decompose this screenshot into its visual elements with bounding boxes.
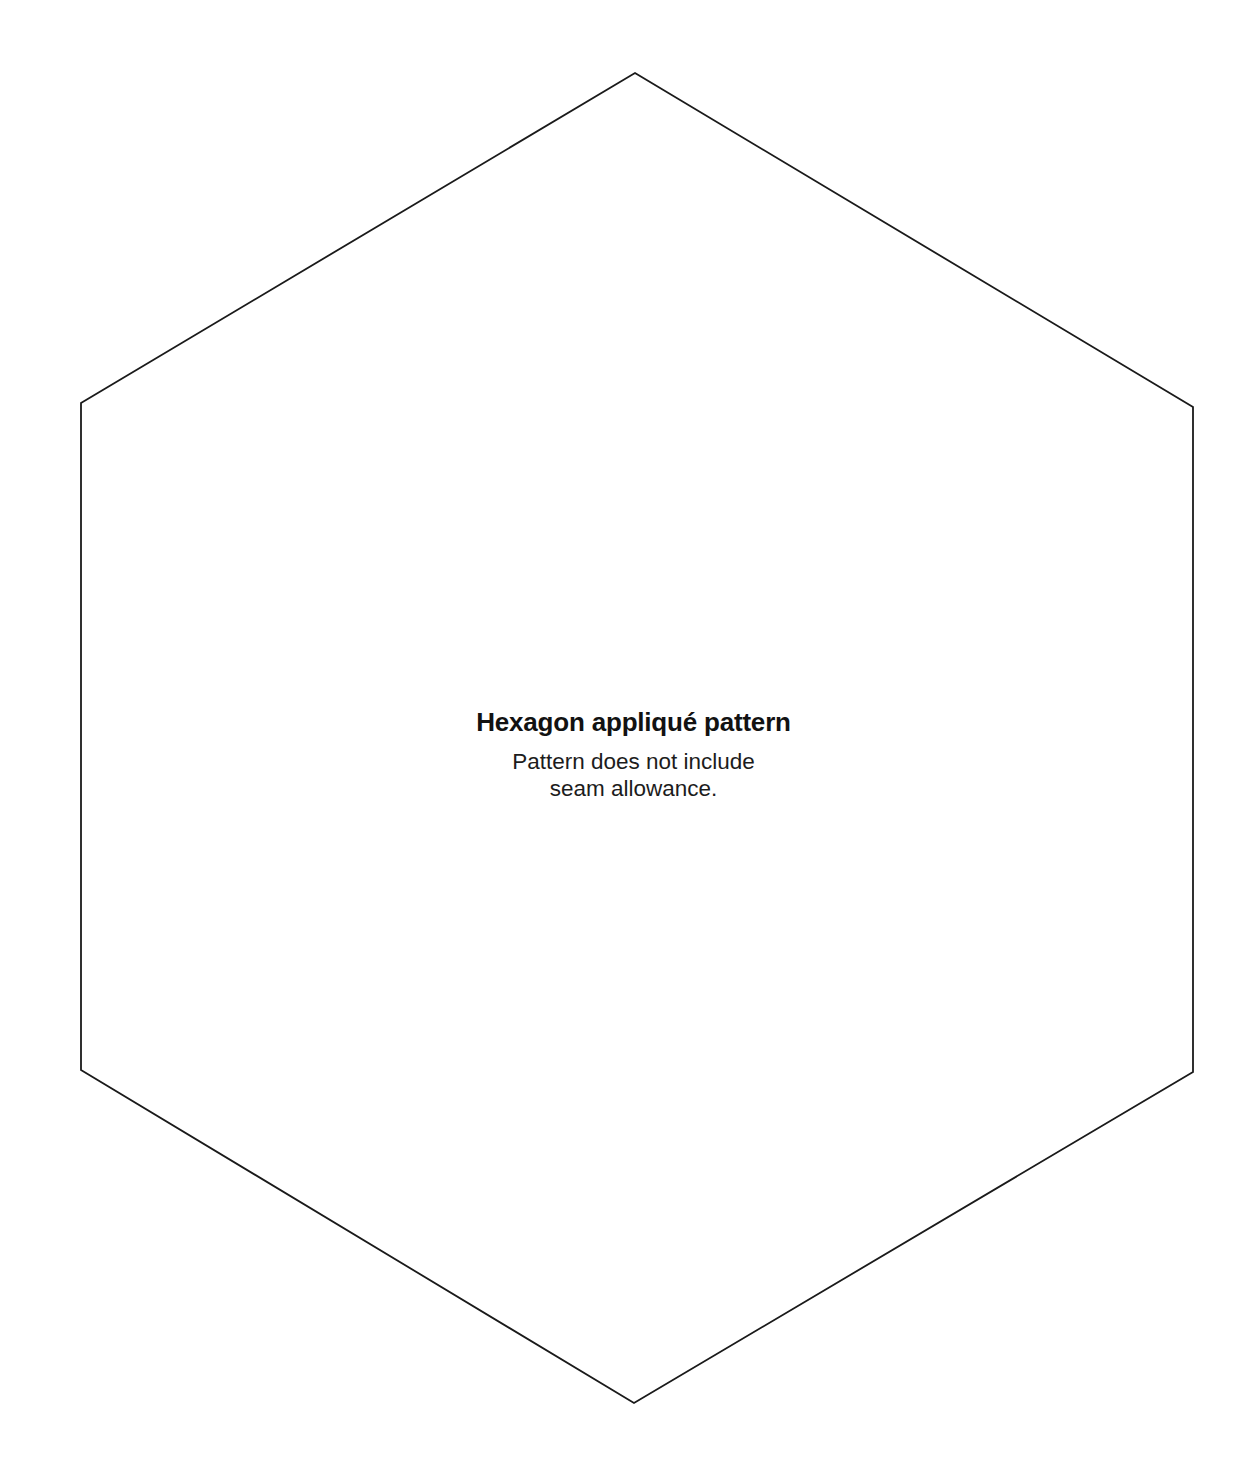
seam-allowance-note-line-2: seam allowance.: [10, 776, 1257, 803]
seam-allowance-note-line-1: Pattern does not include: [10, 749, 1257, 776]
seam-allowance-note: Pattern does not include seam allowance.: [10, 738, 1257, 802]
page-title: Hexagon appliqué pattern: [10, 706, 1257, 738]
pattern-label-block: Hexagon appliqué pattern Pattern does no…: [0, 706, 1257, 802]
pattern-page: Hexagon appliqué pattern Pattern does no…: [0, 0, 1257, 1482]
